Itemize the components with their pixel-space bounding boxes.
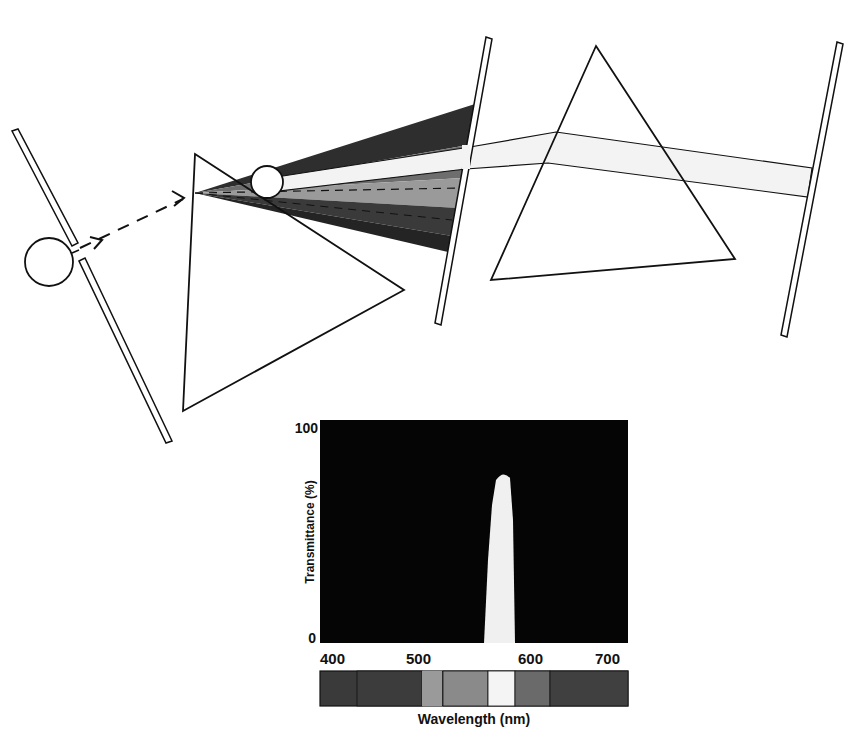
y-tick-100: 100 — [295, 420, 319, 436]
monochromator-diagram: 100 0 Transmittance (%) 400 500 600 700 … — [0, 0, 848, 749]
x-tick-600: 600 — [518, 650, 543, 667]
entrance-slit — [12, 129, 172, 443]
wavelength-color-bar — [320, 671, 628, 706]
y-tick-0: 0 — [308, 630, 316, 646]
x-tick-400: 400 — [320, 650, 345, 667]
plot-area — [320, 420, 628, 643]
light-source-icon — [25, 238, 73, 286]
x-tick-700: 700 — [595, 650, 620, 667]
transmittance-chart: 100 0 Transmittance (%) 400 500 600 700 … — [295, 420, 628, 727]
incident-ray-arrow — [80, 191, 184, 249]
aperture-circle-icon — [251, 166, 283, 198]
x-axis-label: Wavelength (nm) — [418, 711, 530, 727]
x-tick-500: 500 — [406, 650, 431, 667]
y-axis-label: Transmittance (%) — [303, 480, 317, 583]
